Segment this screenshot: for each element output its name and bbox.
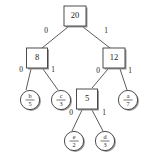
huffman-tree-diagram: 0 1 0 1 0 1 0 1 20 8 12 (0, 0, 150, 157)
edge-n5-to-leaf-e (72, 110, 82, 131)
tree-svg-canvas: 0 1 0 1 0 1 0 1 20 8 12 (0, 0, 150, 157)
edge-label-n12-left: 0 (96, 66, 100, 75)
edge-label-n8-left: 0 (19, 65, 23, 74)
node-root[interactable]: 20 (64, 6, 88, 28)
leaf-a-symbol: a (127, 92, 130, 99)
node-n12[interactable]: 12 (103, 48, 127, 70)
leaf-node-b[interactable]: b 5 (20, 90, 41, 111)
edge-group (26, 27, 127, 131)
leaf-c-symbol: c (60, 92, 63, 99)
leaf-node-a[interactable]: a 7 (118, 90, 139, 111)
edge-label-root-left: 0 (44, 26, 48, 35)
leaf-e-weight: 2 (72, 141, 75, 148)
edge-label-n5-right: 1 (102, 108, 106, 117)
edge-n12-to-leaf-a (120, 69, 127, 90)
node-n5-label: 5 (85, 93, 89, 103)
leaf-node-d[interactable]: d 3 (95, 131, 116, 152)
node-root-label: 20 (71, 10, 80, 20)
edge-label-n8-right: 1 (51, 65, 55, 74)
node-n8-label: 8 (35, 52, 39, 62)
node-n8[interactable]: 8 (27, 48, 50, 70)
node-n12-label: 12 (110, 52, 119, 62)
edge-label-root-right: 1 (104, 26, 108, 35)
leaf-b-weight: 5 (28, 100, 31, 107)
leaf-d-weight: 3 (103, 141, 106, 148)
leaf-c-weight: 3 (59, 100, 62, 107)
edge-n8-to-leaf-b (26, 69, 31, 90)
leaf-node-e[interactable]: e 2 (64, 131, 85, 152)
node-n5[interactable]: 5 (77, 89, 100, 111)
edge-n12-to-n5 (92, 69, 108, 88)
leaf-a-weight: 7 (126, 100, 129, 107)
leaf-b-symbol: b (28, 92, 31, 99)
leaf-e-symbol: e (73, 133, 76, 140)
leaf-node-c[interactable]: c 3 (51, 90, 71, 111)
edge-label-n12-right: 1 (128, 66, 132, 75)
edge-label-n5-left: 0 (69, 108, 73, 117)
